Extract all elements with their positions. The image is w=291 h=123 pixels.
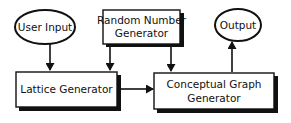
node-random-number-generator: Random Number Generator — [97, 10, 187, 47]
node-conceptual-graph-generator: Conceptual Graph Generator — [154, 73, 278, 113]
lattice-label: Lattice Generator — [20, 83, 113, 95]
conceptual-label-line1: Conceptual Graph — [167, 78, 262, 90]
rng-label-line2: Generator — [115, 27, 169, 39]
flowchart-diagram: User Input Random Number Generator Latti… — [0, 0, 291, 123]
node-lattice-generator: Lattice Generator — [16, 72, 121, 111]
conceptual-label-line2: Generator — [187, 92, 241, 104]
output-label: Output — [220, 19, 256, 31]
node-user-input: User Input — [15, 10, 75, 44]
node-output: Output — [215, 9, 261, 41]
rng-label-line1: Random Number — [97, 14, 187, 26]
user-input-label: User Input — [18, 21, 72, 33]
